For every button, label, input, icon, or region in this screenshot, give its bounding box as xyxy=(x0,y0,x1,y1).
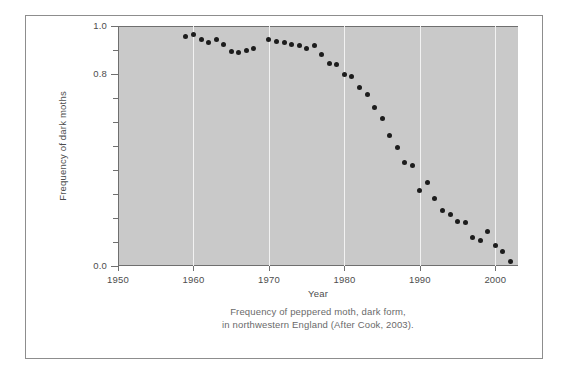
data-point xyxy=(214,37,219,42)
data-point xyxy=(244,48,249,53)
data-point xyxy=(455,219,460,224)
figure-caption: Frequency of peppered moth, dark form, i… xyxy=(118,305,518,331)
plot-area xyxy=(118,26,518,266)
x-tick-label-2000: 2000 xyxy=(470,274,520,285)
x-tick-2000 xyxy=(495,266,496,271)
gridline-1960 xyxy=(193,26,194,266)
data-point xyxy=(266,37,271,42)
data-point xyxy=(229,49,234,54)
gridline-1990 xyxy=(420,26,421,266)
y-tick-0.9 xyxy=(113,50,118,51)
data-point xyxy=(380,116,385,121)
x-tick-label-1950: 1950 xyxy=(93,274,143,285)
data-point xyxy=(342,72,347,77)
data-point xyxy=(191,32,196,37)
data-point xyxy=(221,42,226,47)
data-point xyxy=(297,43,302,48)
y-tick-0.8 xyxy=(111,74,118,75)
data-point xyxy=(440,208,445,213)
data-point xyxy=(349,74,354,79)
plot-border-left xyxy=(118,26,119,266)
data-point xyxy=(500,249,505,254)
data-point xyxy=(312,43,317,48)
data-point xyxy=(289,42,294,47)
data-point xyxy=(319,52,324,57)
plot-border-bottom xyxy=(118,265,518,266)
y-tick-0.3 xyxy=(113,194,118,195)
y-tick-1.0 xyxy=(111,26,118,27)
figure-container: 0.00.81.0 195019601970198019902000 Frequ… xyxy=(0,0,568,387)
x-tick-1980 xyxy=(344,266,345,271)
x-tick-label-1990: 1990 xyxy=(395,274,445,285)
data-point xyxy=(365,92,370,97)
data-point xyxy=(304,46,309,51)
data-point xyxy=(206,40,211,45)
data-point xyxy=(470,235,475,240)
caption-line-1: Frequency of peppered moth, dark form, xyxy=(118,305,518,318)
data-point xyxy=(274,39,279,44)
data-point xyxy=(417,188,422,193)
data-point xyxy=(478,238,483,243)
x-axis-label: Year xyxy=(118,288,518,299)
caption-line-2: in northwestern England (After Cook, 200… xyxy=(118,318,518,331)
x-tick-1970 xyxy=(269,266,270,271)
data-point xyxy=(410,163,415,168)
y-tick-label-0.8: 0.8 xyxy=(67,68,107,79)
x-tick-1960 xyxy=(193,266,194,271)
data-point xyxy=(425,180,430,185)
data-point xyxy=(199,37,204,42)
data-point xyxy=(183,34,188,39)
data-point xyxy=(485,229,490,234)
data-point xyxy=(463,220,468,225)
data-point xyxy=(387,133,392,138)
data-point xyxy=(493,243,498,248)
gridline-2000 xyxy=(495,26,496,266)
y-tick-0.5 xyxy=(113,146,118,147)
gridline-1980 xyxy=(344,26,345,266)
y-tick-label-1.0: 1.0 xyxy=(67,20,107,31)
x-tick-label-1970: 1970 xyxy=(244,274,294,285)
y-tick-0.6 xyxy=(113,122,118,123)
data-point xyxy=(448,212,453,217)
data-point xyxy=(251,46,256,51)
data-point xyxy=(432,196,437,201)
y-tick-0.0 xyxy=(111,266,118,267)
x-tick-label-1960: 1960 xyxy=(168,274,218,285)
y-axis-label: Frequency of dark moths xyxy=(57,46,68,246)
data-point xyxy=(402,160,407,165)
data-point xyxy=(372,105,377,110)
x-tick-1990 xyxy=(420,266,421,271)
data-point xyxy=(327,61,332,66)
y-tick-0.7 xyxy=(113,98,118,99)
data-point xyxy=(334,62,339,67)
data-point xyxy=(357,85,362,90)
y-tick-label-0.0: 0.0 xyxy=(67,260,107,271)
gridline-1970 xyxy=(269,26,270,266)
x-tick-1950 xyxy=(118,266,119,271)
x-tick-label-1980: 1980 xyxy=(319,274,369,285)
y-tick-0.1 xyxy=(113,242,118,243)
data-point xyxy=(395,145,400,150)
data-point xyxy=(236,50,241,55)
data-point xyxy=(282,40,287,45)
plot-border-top xyxy=(118,26,518,27)
data-point xyxy=(508,259,513,264)
y-tick-0.2 xyxy=(113,218,118,219)
y-tick-0.4 xyxy=(113,170,118,171)
